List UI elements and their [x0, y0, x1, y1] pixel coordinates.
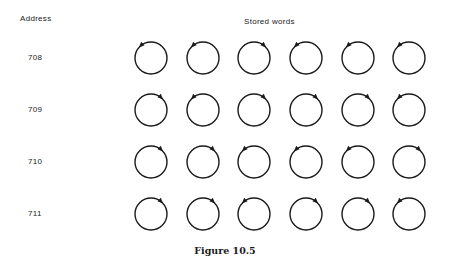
arrow-ccw-icon: [294, 42, 300, 48]
core-710-5: [342, 146, 374, 178]
core-709-4: [290, 94, 322, 126]
core-710-3: [238, 146, 270, 178]
core-709-2: [187, 94, 219, 126]
core-710-2: [187, 146, 219, 178]
arrow-ccw-icon: [294, 146, 300, 152]
arrow-cw-icon: [209, 198, 215, 204]
core-710-6: [393, 146, 425, 178]
arrow-cw-icon: [209, 146, 215, 152]
arrow-cw-icon: [415, 146, 421, 152]
core-708-4: [290, 42, 322, 74]
core-710-4: [290, 146, 322, 178]
core-711-2: [187, 198, 219, 230]
arrow-cw-icon: [312, 198, 318, 204]
core-708-1: [135, 42, 167, 74]
arrow-cw-icon: [260, 94, 266, 100]
core-711-1: [135, 198, 167, 230]
arrow-ccw-icon: [191, 94, 197, 100]
arrow-cw-icon: [157, 146, 163, 152]
core-708-6: [393, 42, 425, 74]
arrow-ccw-icon: [346, 146, 352, 152]
arrow-ccw-icon: [139, 42, 145, 48]
core-708-3: [238, 42, 270, 74]
core-711-6: [393, 198, 425, 230]
magnetic-core-grid: [0, 0, 450, 272]
arrow-ccw-icon: [191, 42, 197, 48]
core-708-2: [187, 42, 219, 74]
arrow-cw-icon: [157, 198, 163, 204]
core-709-6: [393, 94, 425, 126]
core-708-5: [342, 42, 374, 74]
arrow-cw-icon: [260, 42, 266, 48]
core-709-1: [135, 94, 167, 126]
arrow-ccw-icon: [346, 42, 352, 48]
arrow-ccw-icon: [397, 198, 403, 204]
arrow-ccw-icon: [242, 198, 248, 204]
core-711-4: [290, 198, 322, 230]
core-709-5: [342, 94, 374, 126]
core-709-3: [238, 94, 270, 126]
core-710-1: [135, 146, 167, 178]
arrow-ccw-icon: [397, 94, 403, 100]
figure-caption: Figure 10.5: [0, 245, 450, 256]
arrow-ccw-icon: [397, 42, 403, 48]
arrow-cw-icon: [312, 94, 318, 100]
core-711-5: [342, 198, 374, 230]
arrow-ccw-icon: [242, 146, 248, 152]
core-711-3: [238, 198, 270, 230]
arrow-cw-icon: [364, 94, 370, 100]
arrow-cw-icon: [157, 94, 163, 100]
arrow-cw-icon: [364, 198, 370, 204]
